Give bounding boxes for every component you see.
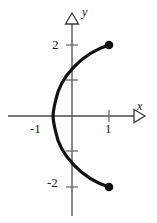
y-axis-label: y xyxy=(82,6,87,18)
x-tick-label-minus-1: -1 xyxy=(30,122,41,135)
x-tick-label-1: 1 xyxy=(105,122,112,135)
endpoint-dot-upper xyxy=(105,41,114,50)
parabola-graph-figure: 2 -2 -1 1 y x xyxy=(0,0,157,223)
x-axis-label: x xyxy=(137,100,142,112)
y-tick-label-2: 2 xyxy=(52,38,59,51)
y-tick-label-minus-2: -2 xyxy=(47,176,58,189)
y-axis-arrow-icon xyxy=(66,13,79,24)
graph-canvas xyxy=(0,0,157,223)
endpoint-dot-lower xyxy=(105,183,114,192)
